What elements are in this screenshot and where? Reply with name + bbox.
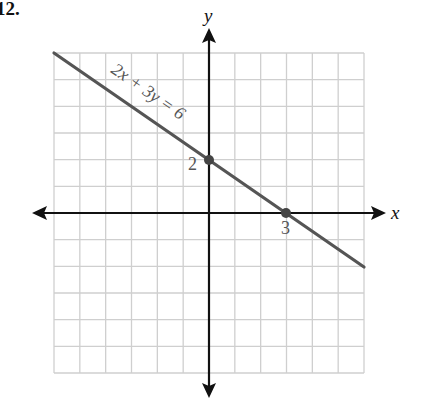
x-intercept-point (281, 208, 291, 218)
x-axis-label: x (390, 202, 400, 223)
y-intercept-point (204, 155, 214, 165)
x-intercept-label: 3 (281, 218, 290, 238)
y-axis-label: y (202, 5, 213, 26)
y-intercept-label: 2 (188, 154, 197, 174)
coordinate-plane: x y 2 3 2x + 3y = 6 (0, 0, 424, 415)
equation-label: 2x + 3y = 6 (108, 59, 190, 124)
